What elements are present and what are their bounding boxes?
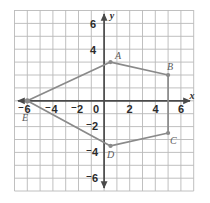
y-tick-label-neg4: ⁻4 [86,146,99,158]
y-tick-label-6: 6 [90,18,96,30]
vertex-dot-a [108,60,112,64]
x-tick-label-0: 0 [93,103,99,115]
y-axis-label: y [109,10,115,21]
x-tick-label-neg4: ⁻4 [45,103,58,115]
y-tick-label-neg6: ⁻6 [86,172,98,184]
vertex-label-e: E [21,112,28,123]
x-tick-label-2: 2 [126,103,132,115]
x-tick-label-6: 6 [178,103,184,115]
vertex-label-b: B [167,61,173,72]
x-tick-label-neg2: ⁻2 [71,103,83,115]
vertex-dot-d [108,144,112,148]
coordinate-plane-figure: 6 4 ⁻2 ⁻4 ⁻6 ⁻6 ⁻4 ⁻2 0 2 4 6 x y A B C … [0,0,210,203]
vertex-label-c: C [170,135,177,146]
coordinate-grid-svg: 6 4 ⁻2 ⁻4 ⁻6 ⁻6 ⁻4 ⁻2 0 2 4 6 x y A B C … [0,0,210,203]
y-tick-label-4: 4 [90,44,97,56]
vertex-dot-b [166,73,170,77]
vertex-label-a: A [114,50,122,61]
x-axis-label: x [189,90,195,101]
y-tick-label-neg2: ⁻2 [86,120,98,132]
vertex-label-d: D [106,149,115,160]
x-tick-label-4: 4 [152,103,159,115]
